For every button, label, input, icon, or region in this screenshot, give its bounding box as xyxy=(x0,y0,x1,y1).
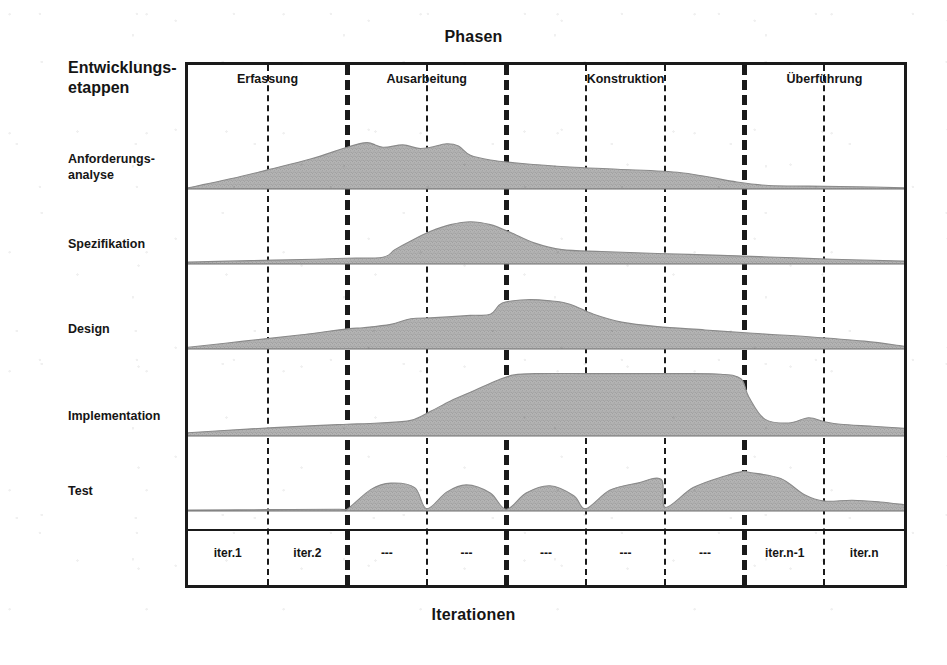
iteration-label-5: --- xyxy=(506,546,586,560)
plot-frame: ErfassungAusarbeitungKonstruktionÜberfüh… xyxy=(185,62,907,588)
area-fill-5 xyxy=(188,471,904,511)
lane-5 xyxy=(188,460,904,515)
row-label-line1-3: Design xyxy=(68,322,110,336)
iteration-label-4: --- xyxy=(427,546,507,560)
row-label-3: Design xyxy=(68,321,186,337)
plot-inner: ErfassungAusarbeitungKonstruktionÜberfüh… xyxy=(188,65,904,585)
row-label-1: Anforderungs-analyse xyxy=(68,151,186,184)
phase-label-3: Konstruktion xyxy=(506,72,745,86)
row-label-line1-2: Spezifikation xyxy=(68,237,145,251)
phase-label-4: Überführung xyxy=(745,72,904,86)
row-label-5: Test xyxy=(68,483,186,499)
iteration-label-7: --- xyxy=(665,546,745,560)
row-label-line1-4: Implementation xyxy=(68,409,160,423)
lane-1 xyxy=(188,125,904,193)
lane-2 xyxy=(188,210,904,268)
page-title: Phasen xyxy=(0,28,947,46)
x-axis-title: Iterationen xyxy=(0,606,947,624)
lane-4 xyxy=(188,365,904,440)
iteration-footer-row: iter.1iter.2---------------iter.n-1iter.… xyxy=(188,529,904,585)
phase-label-1: Erfassung xyxy=(188,72,347,86)
phase-header-row: ErfassungAusarbeitungKonstruktionÜberfüh… xyxy=(188,65,904,99)
row-label-line1-5: Test xyxy=(68,484,93,498)
area-fill-3 xyxy=(188,300,904,349)
iteration-label-6: --- xyxy=(586,546,666,560)
y-axis-title-line2: etappen xyxy=(68,79,129,96)
iteration-label-9: iter.n xyxy=(824,546,904,560)
phase-label-2: Ausarbeitung xyxy=(347,72,506,86)
row-label-line2-1: analyse xyxy=(68,168,114,182)
lane-3 xyxy=(188,287,904,353)
iteration-label-3: --- xyxy=(347,546,427,560)
iteration-label-2: iter.2 xyxy=(268,546,348,560)
y-axis-title-line1: Entwicklungs- xyxy=(68,59,176,76)
row-label-2: Spezifikation xyxy=(68,236,186,252)
iteration-label-1: iter.1 xyxy=(188,546,268,560)
row-label-4: Implementation xyxy=(68,408,186,424)
row-label-line1-1: Anforderungs- xyxy=(68,152,155,166)
iteration-label-8: iter.n-1 xyxy=(745,546,825,560)
y-axis-title: Entwicklungs- etappen xyxy=(68,58,198,98)
